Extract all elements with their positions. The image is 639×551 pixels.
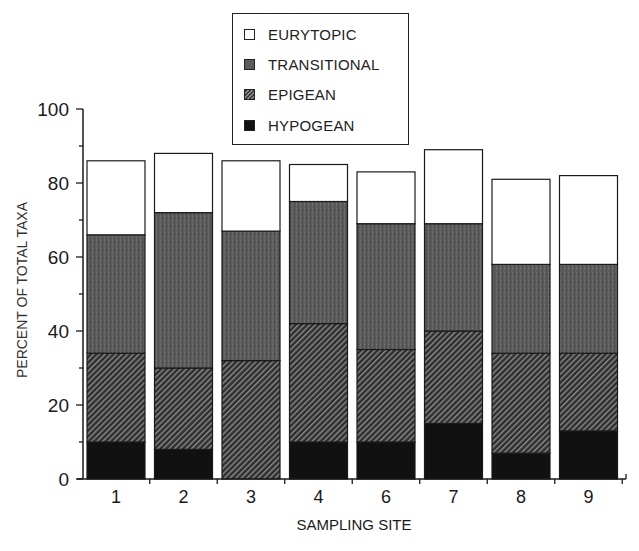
- segment-eurytopic: [357, 172, 415, 224]
- x-axis-label: SAMPLING SITE: [296, 516, 411, 533]
- segment-eurytopic: [155, 153, 213, 212]
- segment-eurytopic: [87, 161, 145, 235]
- x-tick-label: 7: [448, 487, 458, 507]
- segment-epigean: [357, 350, 415, 443]
- x-tick-label: 1: [111, 487, 121, 507]
- legend-item-epigean: EPIGEAN: [244, 86, 336, 102]
- segment-eurytopic: [222, 161, 280, 231]
- y-tick-label: 60: [48, 247, 69, 268]
- segment-hypogean: [290, 442, 348, 479]
- x-tick-label: 8: [516, 487, 526, 507]
- bar-site-2: [155, 153, 213, 479]
- segment-hypogean: [357, 442, 415, 479]
- legend-label: HYPOGEAN: [268, 117, 355, 134]
- segment-transitional: [155, 213, 213, 368]
- y-tick-label: 20: [48, 395, 69, 416]
- eurytopic-swatch-icon: [244, 29, 255, 40]
- segment-epigean: [492, 353, 550, 453]
- segment-transitional: [290, 202, 348, 324]
- segment-epigean: [155, 368, 213, 449]
- segment-transitional: [492, 264, 550, 353]
- bar-site-9: [560, 176, 618, 479]
- segment-epigean: [222, 361, 280, 479]
- y-axis-label: PERCENT OF TOTAL TAXA: [14, 201, 30, 378]
- x-tick-label: 2: [178, 487, 188, 507]
- epigean-swatch-icon: [244, 89, 255, 100]
- segment-eurytopic: [290, 165, 348, 202]
- segment-eurytopic: [425, 150, 483, 224]
- segment-epigean: [87, 353, 145, 442]
- segment-transitional: [425, 224, 483, 331]
- legend-item-transitional: TRANSITIONAL: [244, 56, 380, 72]
- hypogean-swatch-icon: [244, 120, 255, 131]
- segment-hypogean: [155, 449, 213, 479]
- bar-site-7: [425, 150, 483, 479]
- bar-site-1: [87, 161, 145, 479]
- bar-site-3: [222, 161, 280, 479]
- x-tick-label: 4: [313, 487, 323, 507]
- legend: EURYTOPIC TRANSITIONAL EPIGEAN HYPOGEAN: [232, 13, 409, 145]
- segment-transitional: [560, 264, 618, 353]
- segment-transitional: [357, 224, 415, 350]
- legend-label: EURYTOPIC: [268, 26, 357, 43]
- bars-group: [87, 150, 618, 479]
- bar-site-6: [357, 172, 415, 479]
- segment-epigean: [560, 353, 618, 431]
- y-tick-label: 80: [48, 173, 69, 194]
- segment-transitional: [87, 235, 145, 353]
- x-tick-label: 6: [381, 487, 391, 507]
- legend-item-eurytopic: EURYTOPIC: [244, 26, 357, 42]
- segment-epigean: [290, 324, 348, 442]
- legend-label: TRANSITIONAL: [268, 56, 380, 73]
- x-tick-label: 3: [246, 487, 256, 507]
- transitional-swatch-icon: [244, 59, 255, 70]
- segment-hypogean: [425, 424, 483, 480]
- legend-label: EPIGEAN: [268, 86, 336, 103]
- legend-item-hypogean: HYPOGEAN: [244, 117, 355, 133]
- x-tick-label: 9: [583, 487, 593, 507]
- bar-site-4: [290, 165, 348, 480]
- segment-eurytopic: [492, 179, 550, 264]
- segment-hypogean: [560, 431, 618, 479]
- segment-hypogean: [87, 442, 145, 479]
- y-tick-label: 100: [37, 99, 69, 120]
- segment-transitional: [222, 231, 280, 361]
- segment-epigean: [425, 331, 483, 424]
- segment-hypogean: [492, 453, 550, 479]
- y-tick-label: 0: [58, 469, 69, 490]
- bar-site-8: [492, 179, 550, 479]
- segment-eurytopic: [560, 176, 618, 265]
- y-tick-label: 40: [48, 321, 69, 342]
